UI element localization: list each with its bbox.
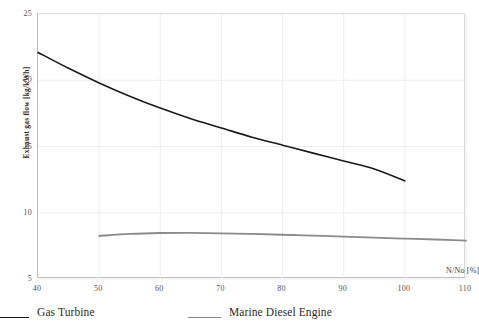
series-line-1 bbox=[99, 233, 466, 241]
y-tick-20: 20 bbox=[10, 75, 32, 84]
legend-swatch-gas-turbine bbox=[0, 317, 29, 318]
legend-item-marine-diesel-engine: Marine Diesel Engine bbox=[188, 303, 332, 321]
x-tick-110: 110 bbox=[459, 284, 471, 293]
x-axis-title: N/No [%] bbox=[446, 266, 479, 275]
legend-item-gas-turbine: Gas Turbine bbox=[0, 303, 95, 321]
x-tick-40: 40 bbox=[33, 284, 41, 293]
x-tick-80: 80 bbox=[277, 284, 285, 293]
legend-label-marine-diesel-engine: Marine Diesel Engine bbox=[229, 306, 332, 318]
x-tick-60: 60 bbox=[155, 284, 163, 293]
series-line-0 bbox=[38, 52, 405, 181]
chart-legend: Gas Turbine Marine Diesel Engine bbox=[0, 300, 475, 328]
legend-swatch-marine-diesel-engine bbox=[188, 317, 221, 318]
x-tick-100: 100 bbox=[398, 284, 411, 293]
legend-label-gas-turbine: Gas Turbine bbox=[37, 306, 95, 318]
y-tick-10: 10 bbox=[10, 207, 32, 216]
y-tick-15: 15 bbox=[10, 141, 32, 150]
x-tick-90: 90 bbox=[339, 284, 347, 293]
x-tick-50: 50 bbox=[94, 284, 102, 293]
plot-area: N/No [%] bbox=[37, 13, 465, 278]
y-tick-5: 5 bbox=[10, 274, 32, 283]
y-axis-title: Exhaust gas flow [kg/kWh] bbox=[22, 43, 31, 183]
x-tick-70: 70 bbox=[216, 284, 224, 293]
y-tick-25: 25 bbox=[10, 9, 32, 18]
series-lines bbox=[38, 14, 466, 279]
